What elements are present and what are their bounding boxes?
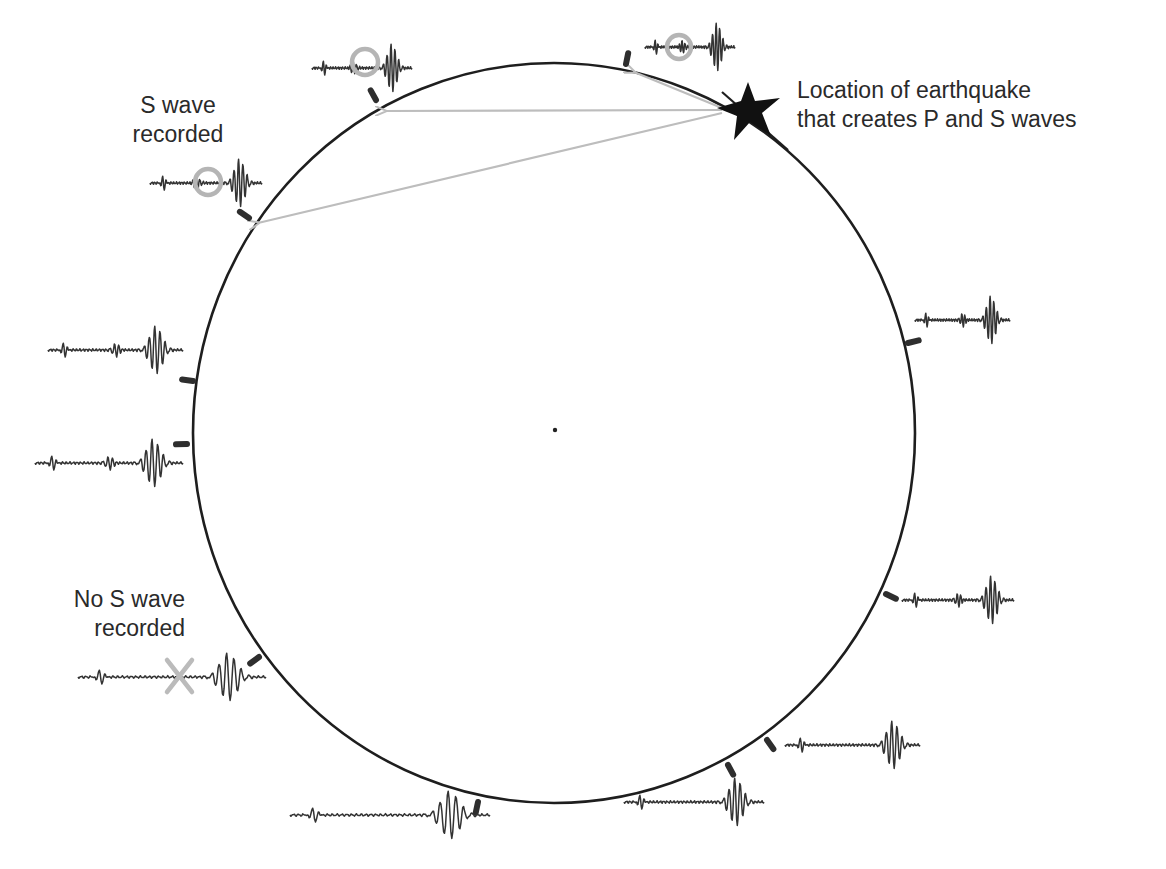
no-s-wave-x-icon [167, 660, 192, 692]
s-wave-recorded-line2: recorded [118, 120, 238, 149]
seismogram-trace [902, 576, 1014, 623]
s-wave-circles [195, 35, 691, 195]
earth-center-dot [553, 428, 557, 432]
station-marker-icon [250, 657, 259, 664]
earth-outline [193, 63, 915, 803]
station-marker-icon [626, 53, 628, 64]
ray-to-station-2 [385, 110, 722, 111]
station-marker-icon [767, 740, 773, 749]
star-icon [717, 82, 780, 140]
seismogram-trace [915, 296, 1010, 343]
seismogram-trace [624, 778, 764, 825]
station-marker-icon [908, 340, 919, 343]
epicenter-label: Location of earthquake that creates P an… [797, 76, 1077, 134]
epicenter-label-line1: Location of earthquake [797, 76, 1077, 105]
seismogram-trace [78, 653, 266, 700]
s-wave-circle-icon [352, 49, 378, 75]
seismogram-trace [150, 159, 262, 206]
station-marker-icon [182, 380, 193, 382]
station-marker-icon [240, 212, 249, 218]
epicenter-label-line2: that creates P and S waves [797, 105, 1077, 134]
s-wave-recorded-line1: S wave [118, 91, 238, 120]
ray-to-station-3 [258, 113, 722, 223]
ray-paths [258, 72, 722, 223]
seismogram-trace [290, 791, 490, 838]
seismogram-trace [35, 439, 183, 486]
seismogram-trace [785, 721, 920, 768]
station-marker-icon [886, 594, 896, 599]
station-marker-icon [728, 765, 733, 775]
no-s-wave-label: No S wave recorded [50, 585, 185, 643]
epicenter [717, 82, 788, 150]
no-s-wave-line2: recorded [50, 614, 185, 643]
station-markers [176, 53, 919, 813]
station-marker-icon [476, 802, 478, 813]
ray-to-station-1 [634, 72, 722, 108]
no-s-wave-line1: No S wave [50, 585, 185, 614]
s-wave-recorded-label: S wave recorded [118, 91, 238, 149]
station-marker-icon [371, 90, 376, 100]
seismogram-trace [48, 326, 183, 373]
